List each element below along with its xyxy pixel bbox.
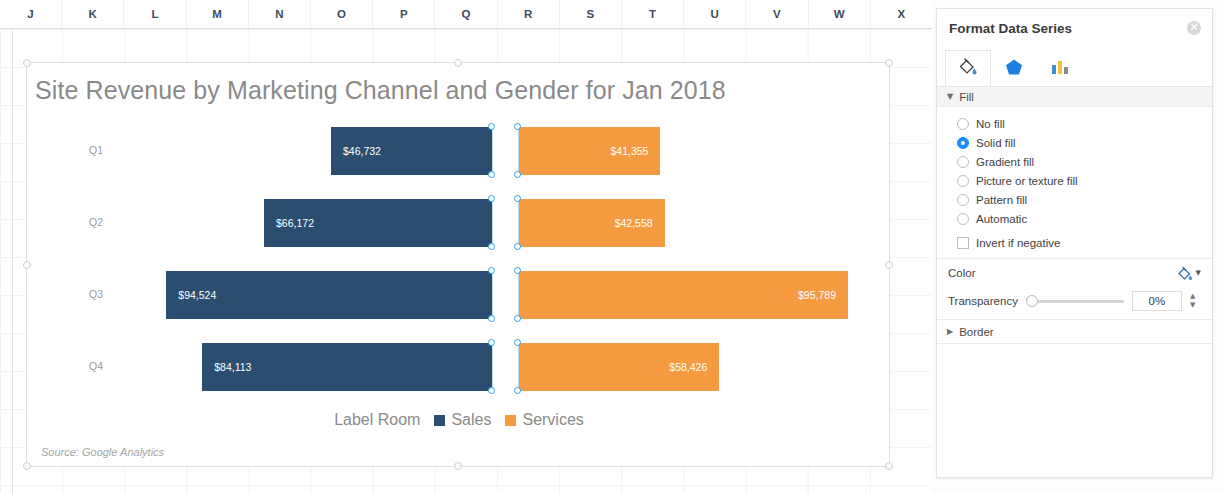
- fill-section-label: Fill: [959, 91, 974, 103]
- radio-button[interactable]: [957, 156, 969, 168]
- fill-option-pattern-fill[interactable]: Pattern fill: [957, 190, 1212, 209]
- selection-edge: [518, 343, 519, 391]
- color-picker-button[interactable]: ▼: [1176, 266, 1201, 281]
- selection-edge: [492, 343, 493, 391]
- series-selection-handle[interactable]: [488, 171, 495, 178]
- series-selection-handle[interactable]: [514, 315, 521, 322]
- series-selection-handle[interactable]: [514, 195, 521, 202]
- column-header-l[interactable]: L: [124, 0, 186, 28]
- column-header-j[interactable]: J: [0, 0, 62, 28]
- bar-services-q3[interactable]: $95,789: [518, 271, 848, 319]
- radio-button[interactable]: [957, 175, 969, 187]
- fill-section-header[interactable]: ▼ Fill: [937, 87, 1212, 107]
- chart-object[interactable]: Site Revenue by Marketing Channel and Ge…: [26, 62, 890, 467]
- column-header-o[interactable]: O: [311, 0, 373, 28]
- series-selection-handle[interactable]: [514, 387, 521, 394]
- column-header-m[interactable]: M: [187, 0, 249, 28]
- chart-title[interactable]: Site Revenue by Marketing Channel and Ge…: [35, 76, 726, 105]
- column-header-k[interactable]: K: [62, 0, 124, 28]
- column-header-p[interactable]: P: [373, 0, 435, 28]
- chart-legend[interactable]: Label RoomSalesServices: [27, 411, 891, 429]
- fill-option-label: No fill: [976, 118, 1005, 130]
- chart-plot-area[interactable]: Q1$46,732$41,355Q2$66,172$42,558Q3$94,52…: [27, 115, 891, 405]
- legend-entry-sales[interactable]: Sales: [434, 411, 491, 429]
- column-header-t[interactable]: T: [622, 0, 684, 28]
- bar-services-q1[interactable]: $41,355: [518, 127, 660, 175]
- panel-tab-series-options[interactable]: [1037, 50, 1083, 86]
- series-selection-handle[interactable]: [488, 123, 495, 130]
- transparency-slider-thumb[interactable]: [1026, 295, 1038, 307]
- paint-bucket-icon: [957, 57, 979, 81]
- series-selection-handle[interactable]: [488, 339, 495, 346]
- column-header-r[interactable]: R: [498, 0, 560, 28]
- series-selection-handle[interactable]: [488, 195, 495, 202]
- series-selection-handle[interactable]: [514, 171, 521, 178]
- chart-row: Q4$84,113$58,426: [27, 331, 891, 403]
- panel-tab-fill-and-line[interactable]: [945, 50, 991, 86]
- stepper-up-icon[interactable]: ▲: [1190, 293, 1195, 300]
- resize-handle-bottom-left[interactable]: [23, 462, 31, 470]
- bar-sales-q1[interactable]: $46,732: [331, 127, 492, 175]
- fill-options-group[interactable]: No fillSolid fillGradient fillPicture or…: [937, 107, 1212, 232]
- stepper-down-icon[interactable]: ▼: [1190, 302, 1195, 309]
- fill-option-automatic[interactable]: Automatic: [957, 209, 1212, 228]
- invert-if-negative-row[interactable]: Invert if negative: [937, 232, 1212, 254]
- series-selection-handle[interactable]: [488, 243, 495, 250]
- border-section-header[interactable]: ▶ Border: [937, 320, 1212, 344]
- series-selection-handle[interactable]: [488, 315, 495, 322]
- legend-swatch: [505, 415, 516, 426]
- transparency-value-input[interactable]: 0%: [1132, 291, 1182, 311]
- bar-sales-q3[interactable]: $94,524: [166, 271, 492, 319]
- axis-title[interactable]: Label Room: [334, 411, 420, 429]
- transparency-row[interactable]: Transparency 0% ▲ ▼: [937, 287, 1212, 315]
- fill-option-label: Gradient fill: [976, 156, 1034, 168]
- bar-services-q4[interactable]: $58,426: [518, 343, 719, 391]
- transparency-slider[interactable]: [1026, 295, 1124, 307]
- legend-label: Services: [522, 411, 583, 429]
- panel-tab-bar[interactable]: [937, 47, 1212, 86]
- column-header-u[interactable]: U: [684, 0, 746, 28]
- bar-services-q2[interactable]: $42,558: [518, 199, 665, 247]
- chevron-down-icon: ▼: [947, 92, 953, 101]
- bar-pair: $94,524$95,789: [27, 271, 891, 319]
- fill-option-gradient-fill[interactable]: Gradient fill: [957, 152, 1212, 171]
- close-icon[interactable]: ✕: [1187, 21, 1201, 35]
- radio-button[interactable]: [957, 194, 969, 206]
- column-header-q[interactable]: Q: [435, 0, 497, 28]
- column-header-s[interactable]: S: [560, 0, 622, 28]
- chart-source-note: Source: Google Analytics: [41, 446, 164, 458]
- resize-handle-top-center[interactable]: [454, 59, 462, 67]
- radio-button[interactable]: [957, 137, 969, 149]
- column-header-x[interactable]: X: [871, 0, 932, 28]
- bar-value-label: $95,789: [786, 289, 848, 301]
- series-selection-handle[interactable]: [514, 339, 521, 346]
- resize-handle-top-right[interactable]: [885, 59, 893, 67]
- fill-option-solid-fill[interactable]: Solid fill: [957, 133, 1212, 152]
- radio-button[interactable]: [957, 213, 969, 225]
- fill-option-no-fill[interactable]: No fill: [957, 114, 1212, 133]
- series-selection-handle[interactable]: [514, 123, 521, 130]
- series-selection-handle[interactable]: [488, 267, 495, 274]
- color-row[interactable]: Color ▼: [937, 259, 1212, 287]
- legend-entry-services[interactable]: Services: [505, 411, 583, 429]
- chart-row: Q1$46,732$41,355: [27, 115, 891, 187]
- transparency-stepper[interactable]: ▲ ▼: [1190, 293, 1195, 309]
- column-header-w[interactable]: W: [809, 0, 871, 28]
- fill-option-picture-or-texture-fill[interactable]: Picture or texture fill: [957, 171, 1212, 190]
- bar-sales-q4[interactable]: $84,113: [202, 343, 492, 391]
- resize-handle-bottom-right[interactable]: [885, 462, 893, 470]
- spreadsheet-area: JKLMNOPQRSTUVWX Site Revenue by Marketin…: [0, 0, 932, 493]
- series-selection-handle[interactable]: [488, 387, 495, 394]
- resize-handle-bottom-center[interactable]: [454, 462, 462, 470]
- format-data-series-panel[interactable]: Format Data Series ✕ ▼ Fill No fillSolid…: [936, 8, 1213, 478]
- invert-if-negative-checkbox[interactable]: [957, 237, 969, 249]
- bar-sales-q2[interactable]: $66,172: [264, 199, 492, 247]
- series-selection-handle[interactable]: [514, 243, 521, 250]
- column-header-v[interactable]: V: [746, 0, 808, 28]
- radio-button[interactable]: [957, 118, 969, 130]
- selection-edge: [492, 271, 493, 319]
- panel-tab-effects[interactable]: [991, 50, 1037, 86]
- column-header-n[interactable]: N: [249, 0, 311, 28]
- series-selection-handle[interactable]: [514, 267, 521, 274]
- resize-handle-top-left[interactable]: [23, 59, 31, 67]
